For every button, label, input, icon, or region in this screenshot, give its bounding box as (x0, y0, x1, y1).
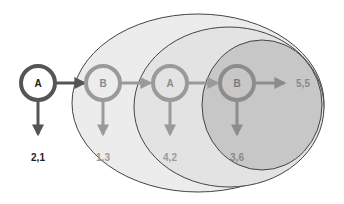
node-b-2: B (220, 66, 254, 100)
output-label-2: 1,3 (96, 152, 110, 163)
node-a-2: A (153, 66, 187, 100)
node-a-1: A (21, 66, 55, 100)
node-b-1: B (86, 66, 120, 100)
inner-scope-ellipse (202, 40, 322, 170)
node-label: A (34, 78, 41, 89)
node-label: B (99, 78, 106, 89)
diagram-canvas: A B A B 2,1 1,3 4,2 3,6 5,5 (0, 0, 344, 204)
output-label-3: 4,2 (163, 152, 177, 163)
node-label: B (233, 78, 240, 89)
final-output-label: 5,5 (296, 78, 310, 89)
output-label-4: 3,6 (230, 152, 244, 163)
node-label: A (166, 78, 173, 89)
output-label-1: 2,1 (31, 152, 45, 163)
